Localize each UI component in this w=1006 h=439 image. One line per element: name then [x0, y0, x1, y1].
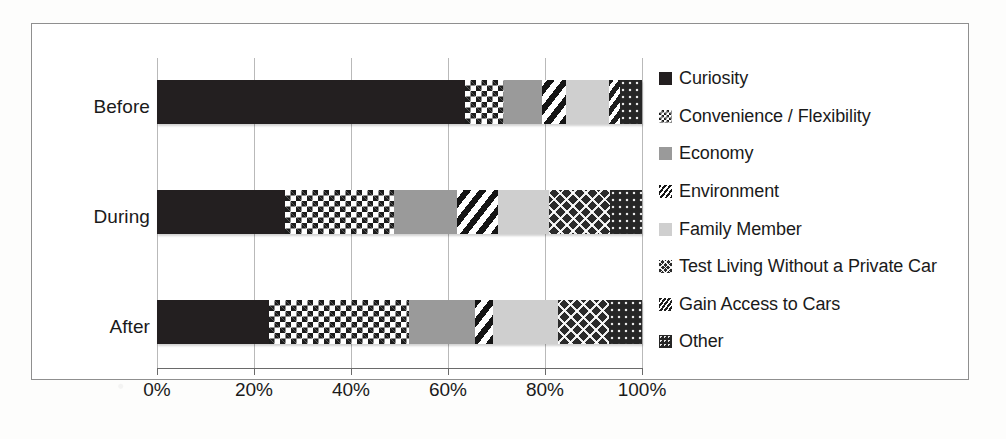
x-tick-label: 0%	[122, 379, 192, 401]
bar-segment	[269, 300, 410, 344]
bar-segment	[394, 190, 457, 234]
x-tick-label: 100%	[607, 379, 677, 401]
bar-segment	[542, 80, 566, 124]
category-label-before: Before	[72, 96, 150, 118]
bar-segment	[157, 80, 465, 124]
x-tick-label: 80%	[510, 379, 580, 401]
tick-mark-60%	[448, 368, 449, 375]
legend-swatch-icon	[659, 298, 672, 311]
tick-mark-80%	[545, 368, 546, 375]
tick-mark-100%	[642, 368, 643, 375]
bar-segment	[504, 80, 542, 124]
bar-segment	[620, 80, 642, 124]
bar-segment	[498, 190, 549, 234]
legend-item[interactable]: Environment	[659, 173, 959, 211]
bar-segment	[609, 80, 620, 124]
legend-item[interactable]: Economy	[659, 135, 959, 173]
bar-segment	[465, 80, 504, 124]
chart-legend: CuriosityConvenience / FlexibilityEconom…	[659, 60, 959, 361]
bar-segment	[609, 300, 642, 344]
bar-segment	[457, 190, 498, 234]
bar-segment	[549, 190, 610, 234]
legend-swatch-icon	[659, 185, 672, 198]
legend-swatch-icon	[659, 72, 672, 85]
legend-item-label: Economy	[679, 143, 753, 164]
legend-item[interactable]: Family Member	[659, 210, 959, 248]
tick-mark-40%	[351, 368, 352, 375]
bar-segment	[566, 80, 609, 124]
legend-item[interactable]: Other	[659, 323, 959, 361]
x-tick-label: 60%	[413, 379, 483, 401]
legend-swatch-icon	[659, 223, 672, 236]
category-label-during: During	[72, 206, 150, 228]
bar-segment	[157, 190, 285, 234]
bar-segment	[493, 300, 558, 344]
legend-item-label: Curiosity	[679, 68, 748, 89]
x-tick-label: 20%	[219, 379, 289, 401]
bar-segment	[157, 300, 269, 344]
category-label-after: After	[72, 316, 150, 338]
bar-segment	[475, 300, 493, 344]
chart-page: Before During After CuriosityConvenience…	[0, 0, 1006, 439]
legend-item[interactable]: Curiosity	[659, 60, 959, 98]
legend-item-label: Other	[679, 331, 724, 352]
bar-segment	[558, 300, 609, 344]
chart-frame: Before During After CuriosityConvenience…	[31, 23, 969, 380]
bar-segment	[285, 190, 394, 234]
legend-item[interactable]: Gain Access to Cars	[659, 286, 959, 324]
bar-after	[157, 300, 642, 344]
legend-item[interactable]: Convenience / Flexibility	[659, 98, 959, 136]
tick-mark-0%	[157, 368, 158, 375]
bar-segment	[409, 300, 475, 344]
x-axis-line	[157, 368, 643, 369]
legend-swatch-icon	[659, 260, 672, 273]
legend-item[interactable]: Test Living Without a Private Car	[659, 248, 959, 286]
legend-item-label: Gain Access to Cars	[679, 294, 840, 315]
x-tick-label: 40%	[316, 379, 386, 401]
legend-swatch-icon	[659, 147, 672, 160]
bar-before	[157, 80, 642, 124]
bar-segment	[610, 190, 642, 234]
legend-item-label: Convenience / Flexibility	[679, 106, 871, 127]
legend-item-label: Test Living Without a Private Car	[679, 256, 937, 277]
tick-mark-20%	[254, 368, 255, 375]
bar-during	[157, 190, 642, 234]
legend-item-label: Environment	[679, 181, 779, 202]
legend-item-label: Family Member	[679, 219, 802, 240]
legend-swatch-icon	[659, 335, 672, 348]
legend-swatch-icon	[659, 110, 672, 123]
